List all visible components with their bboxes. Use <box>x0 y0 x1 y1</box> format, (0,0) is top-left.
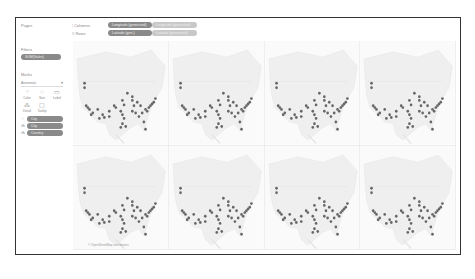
tableau-worksheet: Pages Filters SUM(Sales) Marks Automatic… <box>15 17 461 255</box>
map-panel[interactable] <box>169 146 265 251</box>
map-svg <box>73 41 168 145</box>
detail-button[interactable]: ⁂ Detail <box>21 102 33 113</box>
rows-pill[interactable]: Latitude (gen.) <box>108 30 152 36</box>
columns-pill[interactable]: Longitude (generated) <box>152 22 197 28</box>
rows-shelf-label: ≡ Rows <box>72 31 85 36</box>
size-label: Size <box>39 96 45 100</box>
filters-label: Filters <box>21 47 32 52</box>
rows-icon: ≡ <box>72 31 74 36</box>
columns-shelf-label: ⫶ Columns <box>72 23 90 28</box>
mark-pill[interactable]: ⁂ Country <box>21 130 63 136</box>
detail-icon: ⁂ <box>21 102 33 109</box>
map-panel[interactable] <box>265 41 361 146</box>
size-button[interactable]: ◌ Size <box>36 89 48 100</box>
map-attribution: © OpenStreetMap contributors <box>88 243 129 247</box>
map-svg <box>169 41 264 145</box>
detail-icon: ⁂ <box>21 123 25 129</box>
mark-pill-label: City <box>27 116 63 122</box>
mark-pill-label: Country <box>27 130 63 136</box>
detail-label: Detail <box>23 109 31 113</box>
mark-type-value: Automatic <box>21 81 37 85</box>
map-svg <box>265 41 360 145</box>
detail-icon: ⁂ <box>21 130 25 136</box>
tooltip-button[interactable]: ▢ Tooltip <box>36 102 48 113</box>
mark-pill[interactable]: ⁘ City <box>21 116 63 122</box>
color-icon: ⁘ <box>21 116 24 122</box>
size-icon: ◌ <box>36 89 48 96</box>
map-panel[interactable] <box>265 146 361 251</box>
chevron-down-icon: ▾ <box>61 80 63 86</box>
color-label: Color <box>23 96 31 100</box>
mark-pill-label: City <box>27 123 63 129</box>
map-panel[interactable] <box>360 146 456 251</box>
map-svg <box>265 146 360 250</box>
map-svg <box>360 146 455 250</box>
map-svg <box>73 146 168 250</box>
label-button[interactable]: ▭ Label <box>51 89 63 100</box>
side-panel: Pages Filters SUM(Sales) Marks Automatic… <box>16 18 68 254</box>
marks-label: Marks <box>21 72 32 77</box>
map-panel[interactable] <box>360 41 456 146</box>
color-button[interactable]: ⁘ Color <box>21 89 33 100</box>
columns-pill[interactable]: Longitude (generated) <box>108 22 152 28</box>
pages-label: Pages <box>21 23 32 28</box>
mark-pill[interactable]: ⁂ City <box>21 123 63 129</box>
color-icon: ⁘ <box>21 89 33 96</box>
tooltip-label: Tooltip <box>37 109 46 113</box>
filter-pill[interactable]: SUM(Sales) <box>21 54 61 60</box>
map-panel[interactable] <box>73 41 169 146</box>
label-label: Label <box>53 96 61 100</box>
shelves: ⫶ Columns Longitude (generated) Longitud… <box>68 18 460 40</box>
map-svg <box>360 41 455 145</box>
rows-pill[interactable]: Latitude (generated) <box>152 30 197 36</box>
tooltip-icon: ▢ <box>36 102 48 109</box>
map-grid <box>73 41 456 250</box>
map-svg <box>169 146 264 250</box>
label-icon: ▭ <box>51 89 63 96</box>
map-panel[interactable] <box>73 146 169 251</box>
mark-type-dropdown[interactable]: Automatic ▾ <box>21 80 63 87</box>
columns-icon: ⫶ <box>72 23 73 28</box>
map-panel[interactable] <box>169 41 265 146</box>
